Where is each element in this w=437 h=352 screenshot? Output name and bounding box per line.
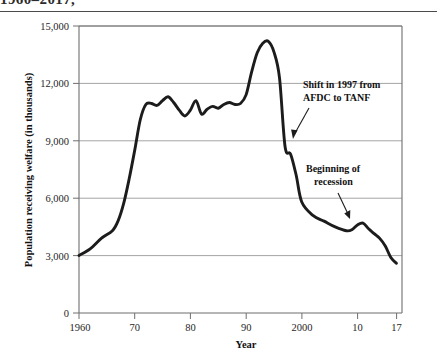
data-line-welfare-population xyxy=(79,41,396,264)
annotation-afdc-tanf: Shift in 1997 from AFDC to TANF xyxy=(291,79,381,139)
annotation-recession-line2: recession xyxy=(314,176,353,187)
y-tick-label-9000: 9,000 xyxy=(45,136,69,147)
y-tick-label-3000: 3,000 xyxy=(45,251,69,262)
x-tick-label-90: 90 xyxy=(241,322,252,333)
x-tick-label-80: 80 xyxy=(185,322,196,333)
gridlines xyxy=(79,26,402,256)
y-tick-label-0: 0 xyxy=(64,308,69,319)
x-tick-marks xyxy=(79,313,397,319)
x-tick-labels: 1960 70 80 90 2000 10 17 xyxy=(70,322,402,333)
y-tick-label-12000: 12,000 xyxy=(40,78,69,89)
y-tick-label-15000: 15,000 xyxy=(40,21,69,32)
annotation-recession: Beginning of recession xyxy=(306,163,361,219)
x-axis-title: Year xyxy=(236,339,257,350)
annotation-recession-line1: Beginning of xyxy=(306,163,361,174)
annotation-afdc-tanf-line1: Shift in 1997 from xyxy=(303,79,381,90)
x-tick-label-1960: 1960 xyxy=(70,322,91,333)
line-chart-svg: 15,000 12,000 9,000 6,000 3,000 0 1960 7… xyxy=(0,0,437,352)
x-tick-label-2000: 2000 xyxy=(291,322,312,333)
x-tick-label-17: 17 xyxy=(391,322,402,333)
annotation-afdc-tanf-line2: AFDC to TANF xyxy=(303,92,370,103)
y-tick-label-6000: 6,000 xyxy=(45,193,69,204)
y-axis-title: Population receiving welfare (in thousan… xyxy=(23,72,35,267)
x-tick-label-10: 10 xyxy=(352,322,363,333)
y-tick-labels: 15,000 12,000 9,000 6,000 3,000 0 xyxy=(40,21,69,319)
x-tick-label-70: 70 xyxy=(129,322,140,333)
chart-figure: 15,000 12,000 9,000 6,000 3,000 0 1960 7… xyxy=(0,0,437,352)
y-tick-marks xyxy=(73,26,79,313)
